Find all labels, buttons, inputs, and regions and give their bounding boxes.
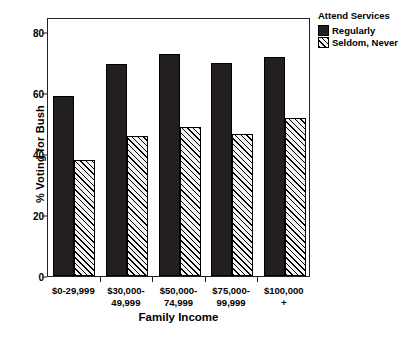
x-tick-label: $100,000 + (247, 285, 321, 308)
bar-group (106, 19, 148, 276)
legend-title: Attend Services (318, 10, 416, 21)
bar-seldom-never (127, 136, 148, 276)
bar-seldom-never (285, 118, 306, 276)
bar-group (159, 19, 201, 276)
bar-seldom-never (74, 160, 95, 276)
bar-regularly (106, 64, 127, 276)
legend-item: Regularly (318, 25, 416, 36)
y-tick-label: 80 (22, 28, 44, 39)
legend: Attend Services RegularlySeldom, Never (318, 10, 416, 49)
y-tick-label: 40 (22, 150, 44, 161)
bar-regularly (211, 63, 232, 276)
legend-swatch-solid-icon (318, 25, 329, 36)
x-tick-mark (257, 277, 258, 282)
bar-seldom-never (232, 134, 253, 276)
legend-swatch-hatch-icon (318, 37, 329, 48)
y-tick-label: 20 (22, 211, 44, 222)
plot-area (47, 18, 310, 277)
bar-group (264, 19, 306, 276)
legend-item: Seldom, Never (318, 37, 416, 48)
legend-label: Seldom, Never (332, 37, 398, 48)
x-tick-mark (205, 277, 206, 282)
y-tick-label: 0 (22, 272, 44, 283)
bar-regularly (53, 96, 74, 276)
y-tick-label: 60 (22, 89, 44, 100)
bar-regularly (264, 57, 285, 276)
bar-chart-figure: % Voting for Bush 020406080 $0-29,999$30… (0, 0, 416, 340)
legend-label: Regularly (332, 25, 375, 36)
bar-group (53, 19, 95, 276)
x-tick-mark (152, 277, 153, 282)
legend-entries: RegularlySeldom, Never (318, 25, 416, 48)
bars-container (48, 19, 309, 276)
x-tick-mark (100, 277, 101, 282)
bar-seldom-never (180, 127, 201, 276)
bar-regularly (159, 54, 180, 276)
bar-group (211, 19, 253, 276)
x-axis-title: Family Income (47, 311, 310, 323)
